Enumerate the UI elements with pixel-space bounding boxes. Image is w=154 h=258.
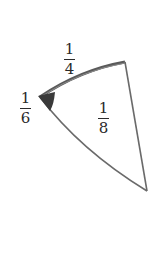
area-label-numerator: 1 (99, 101, 109, 116)
angle-label-denominator: 6 (21, 111, 31, 126)
upper-arc (40, 62, 125, 97)
area-label: 1 8 (98, 101, 109, 136)
arc-label-numerator: 1 (65, 42, 75, 57)
upper-arc-inner (42, 63, 125, 96)
sector-diagram (0, 0, 154, 258)
arc-label: 1 4 (64, 42, 75, 77)
area-label-denominator: 8 (99, 121, 109, 136)
lower-arc-edge (40, 97, 147, 191)
right-edge (125, 62, 147, 191)
arc-label-denominator: 4 (65, 62, 75, 77)
angle-label-numerator: 1 (21, 91, 31, 106)
angle-label: 1 6 (20, 91, 31, 126)
